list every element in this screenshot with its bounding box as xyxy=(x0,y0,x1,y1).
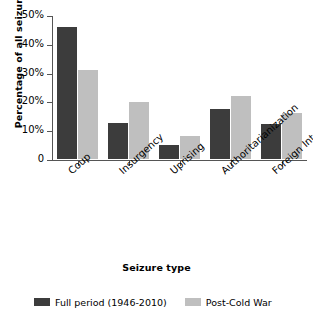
bar xyxy=(159,145,179,159)
x-axis-title: Seizure type xyxy=(0,262,313,273)
bar xyxy=(78,70,98,159)
y-tick-label: 50% xyxy=(22,9,44,20)
bar xyxy=(57,27,77,159)
y-tick-10: 10% xyxy=(47,131,52,132)
y-tick-20: 20% xyxy=(47,102,52,103)
legend-label: Post-Cold War xyxy=(206,297,272,308)
legend-swatch-icon xyxy=(185,298,201,306)
y-tick-label: 30% xyxy=(22,67,44,78)
y-axis-line xyxy=(52,16,53,161)
y-tick-label: 0 xyxy=(38,153,44,164)
y-tick-40: 40% xyxy=(47,45,52,46)
bar-group-coup xyxy=(57,15,98,159)
bar xyxy=(210,109,230,159)
legend-label: Full period (1946-2010) xyxy=(55,297,167,308)
bar-group-authoritarianization xyxy=(210,15,251,159)
legend-item-0[interactable]: Full period (1946-2010) xyxy=(34,297,167,308)
legend-swatch-icon xyxy=(34,298,50,306)
y-tick-label: 20% xyxy=(22,95,44,106)
chart-legend: Full period (1946-2010)Post-Cold War xyxy=(34,294,290,310)
y-tick-0: 0 xyxy=(47,160,52,161)
bar-group-insurgency xyxy=(108,15,149,159)
y-tick-label: 40% xyxy=(22,38,44,49)
bar-chart-figure: Percentage of all seizures 010%20%30%40%… xyxy=(0,0,313,318)
y-tick-50: 50% xyxy=(47,16,52,17)
legend-item-1[interactable]: Post-Cold War xyxy=(185,297,272,308)
bar-group-uprising xyxy=(159,15,200,159)
y-tick-30: 30% xyxy=(47,74,52,75)
y-tick-label: 10% xyxy=(22,124,44,135)
bar xyxy=(108,123,128,159)
plot-area: 010%20%30%40%50% xyxy=(52,16,307,160)
